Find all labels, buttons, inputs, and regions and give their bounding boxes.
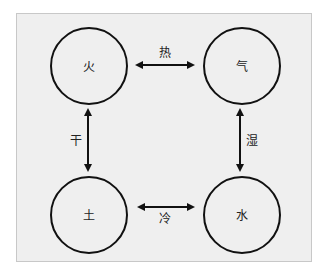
edge-wet: 湿: [240, 110, 258, 170]
node-air-label: 气: [236, 59, 248, 74]
four-elements-diagram: 火 气 土 水 热 干 湿 冷: [0, 0, 331, 278]
edge-dry-label: 干: [70, 134, 82, 148]
edge-dry: 干: [70, 110, 88, 170]
node-water-label: 水: [236, 209, 248, 223]
node-earth: 土: [51, 177, 127, 253]
edge-wet-label: 湿: [246, 133, 258, 148]
node-water: 水: [204, 177, 280, 253]
node-earth-label: 土: [83, 209, 95, 223]
edge-hot-label: 热: [159, 46, 171, 60]
node-fire: 火: [51, 28, 127, 104]
node-air: 气: [204, 28, 280, 104]
edge-hot: 热: [137, 46, 193, 66]
node-fire-label: 火: [83, 60, 95, 74]
edge-cold-label: 冷: [159, 212, 171, 226]
edge-cold: 冷: [139, 207, 193, 226]
